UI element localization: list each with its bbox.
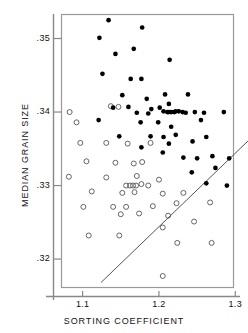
x-tick-label: 1.2 xyxy=(143,299,175,309)
data-point-open xyxy=(132,190,137,195)
data-point-open xyxy=(156,177,161,182)
data-point-open xyxy=(74,120,79,125)
data-point-open xyxy=(66,174,71,179)
data-point-open xyxy=(209,240,214,245)
data-point-filled xyxy=(157,105,162,110)
data-point-filled xyxy=(225,183,230,188)
y-tick-label: .34 xyxy=(24,106,50,116)
data-point-open xyxy=(111,204,116,209)
y-tick-label: .33 xyxy=(24,180,50,190)
data-point-open xyxy=(125,141,130,146)
x-axis-ticks xyxy=(83,291,236,296)
data-point-open xyxy=(137,211,142,216)
data-point-filled xyxy=(97,35,102,40)
data-point-open xyxy=(78,140,83,145)
data-point-filled xyxy=(227,156,232,161)
data-point-filled xyxy=(167,58,172,63)
data-point-open xyxy=(67,110,72,115)
data-point-filled xyxy=(148,134,153,139)
data-point-filled xyxy=(204,135,209,140)
data-point-filled xyxy=(172,110,177,115)
data-point-filled xyxy=(113,52,118,57)
data-point-open xyxy=(104,140,109,145)
data-point-open xyxy=(160,191,165,196)
data-point-filled xyxy=(202,110,207,115)
data-point-filled xyxy=(210,154,215,159)
scatter-plot-figure: MEDIAN GRAIN SIZE SORTING COEFFICIENT .3… xyxy=(0,0,248,333)
data-point-filled xyxy=(120,93,125,98)
data-point-filled xyxy=(186,92,191,97)
data-point-filled xyxy=(139,145,144,150)
data-point-open xyxy=(175,240,180,245)
data-point-open xyxy=(116,104,121,109)
data-point-filled xyxy=(160,150,165,155)
data-point-filled xyxy=(134,110,139,115)
data-point-filled xyxy=(163,92,168,97)
data-point-filled xyxy=(169,124,174,129)
y-tick-label: .32 xyxy=(24,253,50,263)
data-point-open xyxy=(160,225,165,230)
data-point-open xyxy=(113,160,118,165)
data-point-open xyxy=(131,161,136,166)
data-point-filled xyxy=(156,120,161,125)
data-point-open xyxy=(84,159,89,164)
data-point-open xyxy=(148,140,153,145)
data-point-filled xyxy=(190,139,195,144)
reference-line-group xyxy=(101,137,248,283)
data-point-open xyxy=(134,173,139,178)
data-point-filled xyxy=(128,77,133,82)
data-point-open xyxy=(208,200,213,205)
data-point-filled xyxy=(213,166,218,171)
data-point-filled xyxy=(139,77,144,82)
data-point-filled xyxy=(183,110,188,115)
data-point-filled xyxy=(117,134,122,139)
data-point-filled xyxy=(126,105,131,110)
filled-circle-series xyxy=(96,18,231,188)
data-point-open xyxy=(139,182,144,187)
data-point-filled xyxy=(173,132,178,137)
data-point-filled xyxy=(144,96,149,101)
data-point-filled xyxy=(195,156,200,161)
y-axis-ticks xyxy=(54,39,61,260)
data-point-open xyxy=(89,189,94,194)
data-point-filled xyxy=(138,120,143,125)
data-point-open xyxy=(146,183,151,188)
data-point-filled xyxy=(167,141,172,146)
data-point-filled xyxy=(204,181,209,186)
x-tick-label: 1.1 xyxy=(67,299,99,309)
data-point-open xyxy=(117,233,122,238)
data-point-open xyxy=(86,233,91,238)
data-point-filled xyxy=(146,111,151,116)
data-point-filled xyxy=(149,107,154,112)
y-tick-label: .35 xyxy=(24,33,50,43)
data-point-filled xyxy=(106,18,111,23)
data-point-open xyxy=(118,212,123,217)
data-point-filled xyxy=(221,110,226,115)
x-tick-label: 1.3 xyxy=(219,299,248,309)
data-point-filled xyxy=(189,170,194,175)
data-point-open xyxy=(181,190,186,195)
data-point-open xyxy=(140,160,145,165)
data-point-filled xyxy=(140,25,145,30)
plot-frame xyxy=(62,15,234,288)
data-point-filled xyxy=(161,135,166,140)
data-point-open xyxy=(192,219,197,224)
data-point-filled xyxy=(199,118,204,123)
data-point-open xyxy=(124,204,129,209)
data-point-filled xyxy=(176,109,181,114)
data-point-open xyxy=(134,183,139,188)
data-point-open xyxy=(174,201,179,206)
data-point-filled xyxy=(100,71,105,76)
data-point-open xyxy=(81,204,86,209)
data-point-filled xyxy=(181,155,186,160)
data-point-filled xyxy=(192,110,197,115)
data-point-open xyxy=(104,175,109,180)
data-point-filled xyxy=(96,118,101,123)
data-point-filled xyxy=(131,46,136,51)
open-circle-series xyxy=(66,104,214,279)
data-point-open xyxy=(160,273,165,278)
data-point-filled xyxy=(167,102,172,107)
data-point-open xyxy=(120,190,125,195)
data-point-filled xyxy=(111,105,116,110)
diagonal-reference-line xyxy=(101,137,248,283)
